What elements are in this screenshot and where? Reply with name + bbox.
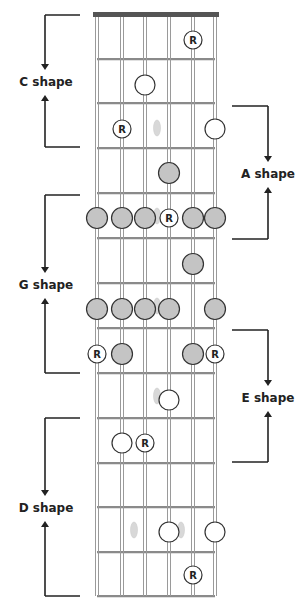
filled-note-dot [205,299,226,320]
open-note-dot [205,119,225,139]
root-label: R [93,349,101,360]
filled-note-dot [87,299,108,320]
open-note-dot [135,75,155,95]
filled-circle-icon [159,163,180,184]
root-label: R [141,438,149,449]
filled-circle-icon [112,299,133,320]
root-label: R [211,349,219,360]
filled-note-dot [112,299,133,320]
filled-circle-icon [183,254,204,275]
root-label: R [165,213,173,224]
filled-note-dot [183,208,204,229]
open-circle-icon [159,522,179,542]
filled-note-dot [205,208,226,229]
filled-note-dot [112,208,133,229]
filled-note-dot [135,208,156,229]
shape-bracket-d: D shape [19,418,80,596]
filled-note-dot [183,254,204,275]
shape-label: A shape [241,167,295,181]
filled-circle-icon [87,208,108,229]
root-note-dot: R [160,209,178,227]
open-circle-icon [159,390,179,410]
filled-circle-icon [183,344,204,365]
filled-circle-icon [135,299,156,320]
root-label: R [118,124,126,135]
filled-circle-icon [112,208,133,229]
root-label: R [189,570,197,581]
open-circle-icon [135,75,155,95]
root-note-dot: R [206,345,224,363]
shape-label: E shape [242,391,295,405]
filled-circle-icon [112,344,133,365]
shape-bracket-a: A shape [232,106,295,239]
root-note-dot: R [113,120,131,138]
root-note-dot: R [88,345,106,363]
filled-note-dot [135,299,156,320]
filled-circle-icon [183,208,204,229]
ghost-marker-icon [154,120,161,136]
shape-bracket-e: E shape [232,330,294,462]
nut [93,12,219,17]
arrow-down-icon [264,380,272,386]
ghost-marker-icon [131,522,138,538]
root-note-dot: R [136,434,154,452]
arrow-up-icon [41,298,49,304]
arrow-down-icon [41,267,49,273]
root-note-dot: R [184,566,202,584]
filled-circle-icon [205,208,226,229]
arrow-down-icon [41,490,49,496]
root-label: R [189,35,197,46]
arrow-up-icon [41,95,49,101]
filled-circle-icon [87,299,108,320]
shape-bracket-g: G shape [19,195,80,373]
open-circle-icon [112,433,132,453]
open-note-dot [112,433,132,453]
filled-note-dot [112,344,133,365]
shape-label: G shape [19,278,74,292]
caged-fretboard-diagram: RRRRRRR C shapeA shapeG shapeE shapeD sh… [0,0,303,608]
arrow-up-icon [264,411,272,417]
open-circle-icon [205,119,225,139]
open-circle-icon [205,522,225,542]
filled-circle-icon [205,299,226,320]
filled-note-dot [159,163,180,184]
arrow-up-icon [41,521,49,527]
filled-note-dot [159,299,180,320]
filled-note-dot [87,208,108,229]
filled-circle-icon [159,299,180,320]
shape-bracket-c: C shape [19,15,80,147]
open-note-dot [159,522,179,542]
filled-circle-icon [135,208,156,229]
arrow-down-icon [41,64,49,70]
shape-label: D shape [19,501,74,515]
open-note-dot [159,390,179,410]
open-note-dot [205,522,225,542]
shape-label: C shape [19,75,73,89]
arrow-down-icon [264,156,272,162]
filled-note-dot [183,344,204,365]
root-note-dot: R [184,31,202,49]
arrow-up-icon [264,187,272,193]
